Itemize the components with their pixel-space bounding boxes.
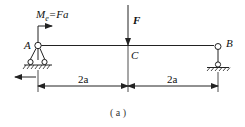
- pin-b-icon: [215, 44, 221, 50]
- figure-caption: ( a ): [110, 108, 126, 118]
- point-c-label: C: [131, 50, 138, 61]
- point-a-label: A: [24, 40, 31, 51]
- pin-b-ground-icon: [215, 62, 220, 67]
- pin-a-icon: [35, 42, 41, 48]
- beam-diagram: Me=Fa F A C B 2a 2a ( a ): [0, 0, 245, 127]
- point-b-label: B: [226, 38, 233, 49]
- force-label: F: [133, 15, 140, 26]
- dimension-left-label: 2a: [78, 74, 88, 85]
- moment-label: Me=Fa: [36, 9, 68, 23]
- roller-a1-icon: [28, 59, 33, 64]
- roller-a2-icon: [42, 59, 47, 64]
- dimension-right-label: 2a: [167, 74, 177, 85]
